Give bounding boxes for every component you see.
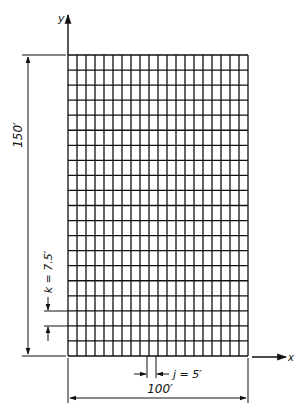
cell-width-dimension xyxy=(134,356,169,378)
diagram-canvas: y x 150′ k = 7.5′ j = 5′ 100′ xyxy=(0,0,307,417)
cell-height-dimension-label: k = 7.5′ xyxy=(42,250,55,293)
width-dimension-label: 100′ xyxy=(147,382,173,396)
y-axis-label: y xyxy=(57,12,65,25)
x-axis-label: x xyxy=(287,352,294,363)
grid xyxy=(68,55,248,356)
y-axis: y xyxy=(57,12,68,55)
cell-height-dimension xyxy=(44,297,68,341)
width-dimension xyxy=(68,358,248,403)
cell-width-dimension-label: j = 5′ xyxy=(171,368,202,381)
x-axis: x xyxy=(252,352,294,363)
height-dimension-label: 150′ xyxy=(11,122,25,148)
